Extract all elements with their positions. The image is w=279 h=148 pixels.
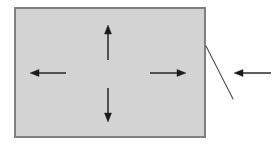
leader-line [206, 46, 233, 99]
arrow-external-left [234, 70, 271, 77]
diagram-canvas [0, 0, 279, 148]
arrow-external-left-head [234, 70, 243, 77]
diagram-svg [0, 0, 279, 148]
